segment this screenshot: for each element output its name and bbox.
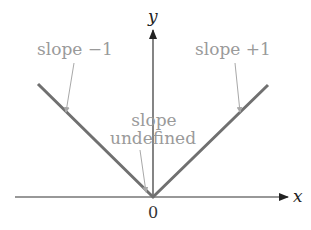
slope-plus-one-label: slope +1 — [195, 39, 271, 59]
callout-arrow-right — [235, 63, 240, 112]
origin-label: 0 — [148, 203, 158, 222]
y-axis-label: y — [147, 6, 158, 26]
absolute-value-diagram: y x 0 slope −1 slope +1 slope undefined — [0, 0, 311, 230]
slope-undefined-label-line1: slope — [131, 110, 176, 130]
callout-arrow-left — [66, 63, 74, 112]
x-axis-label: x — [293, 186, 303, 206]
slope-minus-one-label: slope −1 — [37, 39, 113, 59]
slope-undefined-label-line2: undefined — [110, 128, 196, 148]
